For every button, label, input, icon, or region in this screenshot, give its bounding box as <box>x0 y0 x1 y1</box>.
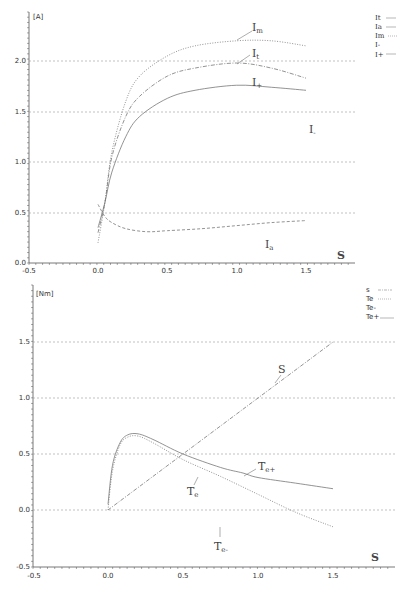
top-axis-minor-ticks <box>27 12 348 265</box>
legend-item-im: Im <box>375 32 385 40</box>
bottom-y-tick: 1.5 <box>19 338 30 346</box>
top-y-tick: 0.0 <box>15 259 26 267</box>
annotation-s: S <box>278 363 286 376</box>
bottom-chart: [Nm] 1.5 1.0 0.5 0.0 -0.5 -0.5 0.0 0.5 1… <box>16 285 395 580</box>
bottom-x-tick: 1.0 <box>252 572 263 580</box>
top-x-tick: 1.0 <box>231 267 242 275</box>
bottom-x-tick: 0.0 <box>102 572 113 580</box>
annotation-it: It <box>252 47 259 61</box>
annotation-teminus: Te- <box>214 540 228 554</box>
annotation-iplus: I+ <box>252 76 262 90</box>
legend-item-ia: Ia <box>375 23 382 31</box>
legend-item-iminus: I- <box>375 41 381 49</box>
legend-item-it: It <box>375 14 381 22</box>
bottom-y-tick: 0.5 <box>19 450 30 458</box>
top-y-unit-label: [A] <box>33 13 44 21</box>
legend-item-teminus: Te- <box>365 304 376 312</box>
annotation-teplus: Te+ <box>258 460 275 474</box>
series-iplus <box>98 85 306 228</box>
top-series-group <box>98 40 306 243</box>
bottom-y-tick: 0.0 <box>19 506 30 514</box>
top-y-tick: 1.0 <box>15 158 26 166</box>
top-x-tick: -0.5 <box>22 267 36 275</box>
top-y-tick: 1.5 <box>15 108 26 116</box>
bottom-x-tick: -0.5 <box>27 572 41 580</box>
top-legend: It Ia Im I- I+ <box>375 14 398 59</box>
top-chart: [A] 2.0 1.5 1.0 0.5 0.0 -0.5 0.0 0.5 1.0… <box>15 12 398 275</box>
legend-item-teplus: Te+ <box>365 313 379 321</box>
legend-item-s: s <box>366 286 370 294</box>
top-y-tick: 2.0 <box>15 57 26 65</box>
legend-item-te: Te <box>365 295 373 303</box>
bottom-axis-minor-ticks <box>31 285 388 569</box>
top-x-tick: 0.0 <box>92 267 103 275</box>
series-s <box>108 342 333 510</box>
series-te <box>108 436 333 527</box>
bottom-x-tick: 0.5 <box>177 572 188 580</box>
annotation-ia: Ia <box>265 238 274 252</box>
series-ia <box>98 204 306 231</box>
series-it <box>98 63 306 233</box>
top-y-tick: 0.5 <box>15 209 26 217</box>
legend-item-iplus: I+ <box>375 51 384 59</box>
top-x-tick: 0.5 <box>161 267 172 275</box>
annotation-im: Im <box>252 21 263 35</box>
bottom-y-tick: 1.0 <box>19 394 30 402</box>
top-x-tick: 1.5 <box>300 267 311 275</box>
bottom-y-tick: -0.5 <box>16 563 30 571</box>
top-x-variable-label: S <box>337 249 345 262</box>
bottom-series-group <box>108 342 333 527</box>
annotation-iminus: I- <box>309 123 316 137</box>
series-im <box>98 40 306 243</box>
annotation-te: Te <box>187 485 199 499</box>
top-annotations: Im It I+ Ia I- <box>237 21 316 252</box>
bottom-gridlines <box>33 342 395 510</box>
top-gridlines <box>29 61 355 213</box>
figure: [A] 2.0 1.5 1.0 0.5 0.0 -0.5 0.0 0.5 1.0… <box>0 0 413 597</box>
bottom-annotations: S Te+ Te Te- <box>187 363 286 554</box>
series-teplus <box>108 433 333 504</box>
bottom-x-tick: 1.5 <box>327 572 338 580</box>
bottom-legend: s Te Te- Te+ <box>365 286 394 321</box>
bottom-y-unit-label: [Nm] <box>36 290 54 298</box>
bottom-x-variable-label: S <box>371 551 379 564</box>
